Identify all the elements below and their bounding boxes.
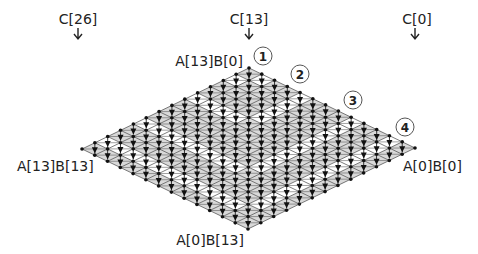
grid-node: [273, 91, 277, 95]
grid-node: [183, 172, 187, 176]
grid-node: [362, 122, 366, 126]
grid-node: [259, 184, 263, 188]
grid-node: [170, 190, 174, 194]
grid-node: [259, 221, 263, 225]
grid-node: [349, 128, 353, 132]
grid-node: [285, 134, 289, 138]
grid-node: [195, 190, 199, 194]
grid-node: [272, 128, 276, 132]
grid-node: [285, 209, 289, 213]
output-c26: C[26]: [59, 11, 98, 39]
grid-node: [260, 85, 264, 89]
grid-node: [196, 104, 200, 108]
grid-node: [273, 79, 277, 83]
grid-node: [247, 91, 251, 95]
grid-node: [196, 141, 200, 145]
grid-node: [221, 153, 225, 157]
grid-node: [310, 196, 314, 200]
grid-node: [298, 165, 302, 169]
grid-node: [362, 134, 366, 138]
grid-node: [247, 165, 251, 169]
grid-node: [234, 172, 238, 176]
grid-node: [349, 140, 353, 144]
grid-node: [106, 135, 110, 139]
grid-node: [221, 178, 225, 182]
grid-node: [170, 104, 174, 108]
grid-node: [221, 103, 225, 107]
down-arrow-icon: [74, 28, 82, 39]
grid-node: [131, 172, 135, 176]
grid-node: [132, 122, 136, 126]
grid-node: [311, 171, 315, 175]
grid-node: [234, 110, 238, 114]
grid-node: [221, 91, 225, 95]
output-c0: C[0]: [402, 11, 432, 39]
grid-node: [246, 202, 250, 206]
grid-node: [260, 122, 264, 126]
grid-node: [234, 97, 238, 101]
grid-node: [272, 140, 276, 144]
grid-node: [375, 165, 379, 169]
grid-node: [400, 152, 404, 156]
grid-node: [196, 128, 200, 132]
grid-node: [272, 153, 276, 157]
output-c13: C[13]: [230, 11, 269, 39]
grid-node: [311, 122, 315, 126]
step-number: 4: [401, 121, 409, 135]
grid-node: [298, 140, 302, 144]
grid-node: [247, 116, 251, 120]
step-marker-3: 3: [344, 91, 362, 109]
grid-node: [170, 128, 174, 132]
down-arrow-icon: [245, 28, 253, 39]
grid-node: [375, 140, 379, 144]
grid-node: [144, 141, 148, 145]
grid-node: [183, 122, 187, 126]
grid-node: [208, 159, 212, 163]
grid-node: [324, 153, 328, 157]
grid-node: [285, 147, 289, 151]
grid-node: [246, 190, 250, 194]
output-labels: C[26] C[13] C[0]: [59, 11, 432, 39]
grid-node: [336, 134, 340, 138]
grid-node: [323, 177, 327, 181]
grid-node: [183, 147, 187, 151]
grid-node: [286, 85, 290, 89]
grid-node: [144, 153, 148, 157]
grid-node: [247, 66, 251, 70]
grid-node: [157, 110, 161, 114]
grid-node: [183, 110, 187, 114]
grid-node: [285, 109, 289, 113]
grid-node: [157, 135, 161, 139]
grid-node: [221, 141, 225, 145]
corner-label-right: A[0]B[0]: [403, 158, 462, 174]
grid-node: [336, 146, 340, 150]
grid-node: [260, 134, 264, 138]
grid-node: [157, 184, 161, 188]
grid-node: [298, 128, 302, 132]
grid-node: [144, 178, 148, 182]
grid-node: [285, 159, 289, 163]
grid-node: [259, 171, 263, 175]
grid-node: [106, 160, 110, 164]
grid-node: [260, 97, 264, 101]
grid-node: [324, 140, 328, 144]
grid-node: [182, 184, 186, 188]
grid-node: [195, 165, 199, 169]
grid-node: [311, 109, 315, 113]
grid-node: [196, 91, 200, 95]
grid-node: [144, 116, 148, 120]
grid-node: [298, 190, 302, 194]
grid-node: [209, 97, 213, 101]
grid-node: [298, 178, 302, 182]
grid-node: [336, 171, 340, 175]
grid-node: [311, 159, 315, 163]
grid-node: [323, 165, 327, 169]
grid-node: [247, 178, 251, 182]
grid-node: [221, 190, 225, 194]
grid-node: [311, 147, 315, 151]
grid-node: [298, 91, 302, 95]
grid-node: [298, 103, 302, 107]
grid-node: [182, 196, 186, 200]
grid-node: [298, 153, 302, 157]
grid-node: [349, 177, 353, 181]
